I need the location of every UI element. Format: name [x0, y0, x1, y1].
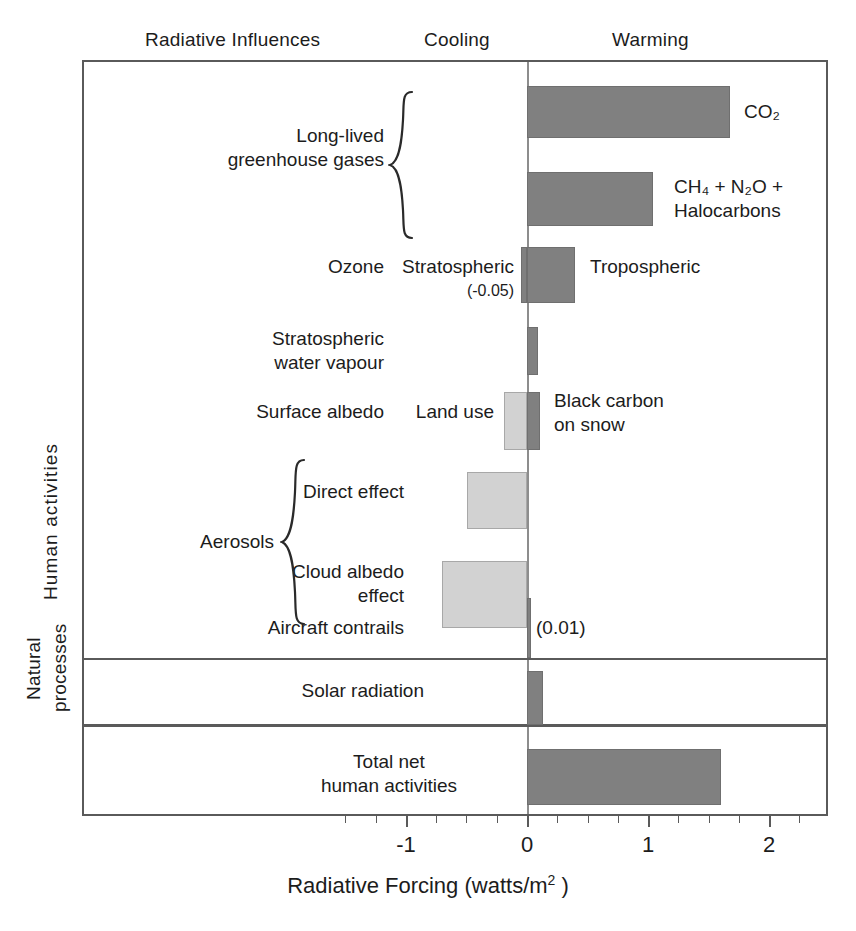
label-aerosols: Aerosols — [114, 530, 274, 554]
axis-tick-minor--1.5 — [345, 816, 346, 823]
section-divider-total — [84, 724, 826, 727]
axis-tick-minor-2.25 — [799, 816, 800, 823]
axis-tick-major-0 — [527, 816, 529, 827]
label-co2: CO₂ — [744, 100, 856, 124]
column-header-radiative-influences: Radiative Influences — [145, 29, 320, 51]
axis-tick-minor--0.25 — [497, 816, 498, 823]
label-ch4-n2o-halocarbons: CH₄ + N₂O + Halocarbons — [674, 175, 856, 223]
axis-tick-label-2: 2 — [749, 832, 789, 858]
bar-aerosol-cloud-albedo-effect — [442, 561, 527, 628]
label-stratospheric-water-vapour: Stratospheric water vapour — [144, 327, 384, 375]
label-aircraft-contrails: Aircraft contrails — [154, 616, 404, 640]
bar-land-use — [504, 392, 527, 450]
label-land-use: Land use — [314, 400, 494, 424]
label-stratospheric-ozone-value: (-0.05) — [314, 279, 514, 303]
axis-tick-minor-0.5 — [588, 816, 589, 823]
section-divider-natural-top — [84, 658, 826, 660]
axis-tick-minor-1.25 — [678, 816, 679, 823]
axis-tick-major-1 — [648, 816, 650, 827]
label-total-net-human-activities: Total net human activities — [259, 750, 519, 798]
axis-title-tail: ) — [555, 873, 568, 898]
bar-stratospheric-water-vapour — [527, 327, 538, 375]
bar-ch4-n2o-halocarbons — [527, 172, 653, 226]
axis-tick-major--1 — [406, 816, 408, 827]
bar-co2 — [527, 86, 730, 138]
bar-tropospheric-ozone — [527, 247, 575, 303]
axis-tick-minor-1.5 — [709, 816, 710, 823]
label-solar-radiation: Solar radiation — [194, 679, 424, 703]
bar-solar-radiation — [527, 671, 543, 725]
brace-greenhouse-gases — [388, 90, 418, 240]
axis-tick-minor-0.75 — [618, 816, 619, 823]
bar-aerosol-direct-effect — [467, 472, 527, 529]
column-header-cooling: Cooling — [424, 29, 490, 51]
group-label-human-activities: Human activities — [40, 443, 62, 600]
label-black-carbon-on-snow: Black carbon on snow — [554, 389, 774, 437]
label-stratospheric-ozone: Stratospheric — [314, 255, 514, 279]
axis-title: Radiative Forcing (watts/m2 ) — [0, 872, 856, 899]
column-header-warming: Warming — [612, 29, 689, 51]
axis-tick-minor--0.75 — [436, 816, 437, 823]
axis-tick-label--1: -1 — [386, 832, 426, 858]
axis-tick-major-2 — [769, 816, 771, 827]
plot-area: Long-lived greenhouse gases CO₂ CH₄ + N₂… — [82, 60, 828, 816]
axis-tick-minor-0.25 — [557, 816, 558, 823]
axis-tick-minor--1.25 — [376, 816, 377, 823]
group-label-natural-processes-line1: Natural — [22, 637, 45, 700]
bar-aircraft-contrails — [527, 598, 531, 658]
axis-tick-minor--0.5 — [466, 816, 467, 823]
bar-total-net-human-activities — [527, 749, 721, 805]
label-tropospheric-ozone: Tropospheric — [590, 255, 810, 279]
bar-black-carbon-on-snow — [527, 392, 540, 450]
group-label-natural-processes-line2: processes — [48, 624, 71, 712]
axis-title-main: Radiative Forcing (watts/m — [287, 873, 547, 898]
axis-tick-label-1: 1 — [628, 832, 668, 858]
axis-tick-minor-1.75 — [739, 816, 740, 823]
axis-tick-label-0: 0 — [507, 832, 547, 858]
label-aircraft-contrails-value: (0.01) — [536, 616, 676, 640]
radiative-forcing-figure: Radiative Influences Cooling Warming Hum… — [0, 0, 856, 931]
label-long-lived-greenhouse-gases: Long-lived greenhouse gases — [144, 124, 384, 172]
brace-aerosols — [280, 458, 310, 626]
